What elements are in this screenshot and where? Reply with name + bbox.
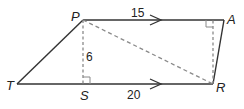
vertex-label-A: A xyxy=(226,12,236,27)
trapezoid-diagram: P A R T S 15 20 6 xyxy=(0,0,244,109)
measure-PA: 15 xyxy=(131,6,145,20)
vertex-label-T: T xyxy=(6,78,15,93)
segment-AR xyxy=(213,20,224,84)
vertex-label-P: P xyxy=(71,9,80,24)
segment-TP xyxy=(17,20,83,84)
measure-TR: 20 xyxy=(127,88,141,102)
right-angle-marker-A xyxy=(206,20,213,27)
measure-PS: 6 xyxy=(86,50,93,64)
vertex-label-R: R xyxy=(216,80,225,95)
diagonal-PR xyxy=(83,20,213,84)
right-angle-marker-S xyxy=(83,77,90,84)
vertex-label-S: S xyxy=(80,88,89,103)
